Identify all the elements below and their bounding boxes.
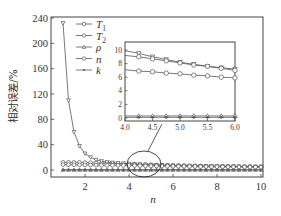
star-marker — [83, 69, 85, 71]
inset-y-tick-label: 0 — [118, 114, 122, 123]
legend-item-T2: T2 — [76, 30, 106, 45]
circle-marker — [219, 66, 223, 70]
star-marker — [206, 116, 208, 118]
star-marker — [138, 116, 140, 118]
star-marker — [84, 169, 86, 171]
circle-marker — [254, 165, 258, 169]
inset-y-tick-label: 8 — [118, 59, 122, 68]
star-marker — [234, 116, 236, 118]
star-marker — [179, 116, 181, 118]
circle-marker — [105, 163, 109, 167]
circle-marker — [243, 165, 247, 169]
circle-marker — [205, 74, 209, 78]
circle-marker — [149, 164, 153, 168]
circle-marker — [171, 164, 175, 168]
inset-y-tick-label: 10 — [115, 46, 123, 55]
legend-label: k — [96, 64, 102, 76]
star-marker — [117, 169, 119, 171]
star-marker — [62, 169, 64, 171]
circle-marker — [248, 165, 252, 169]
star-marker — [89, 169, 91, 171]
inset-y-tick-label: 2 — [118, 100, 122, 109]
circle-marker — [193, 165, 197, 169]
legend-subscript: 1 — [102, 24, 106, 33]
circle-marker — [259, 165, 263, 169]
legend: T1T2ρnk — [76, 18, 106, 76]
star-marker — [133, 169, 135, 171]
star-marker — [106, 169, 108, 171]
star-marker — [100, 169, 102, 171]
circle-marker — [237, 165, 241, 169]
star-marker — [144, 169, 146, 171]
circle-marker — [233, 68, 237, 72]
star-marker — [172, 169, 174, 171]
circle-marker — [164, 59, 168, 63]
circle-marker — [155, 164, 159, 168]
circle-marker — [177, 164, 181, 168]
x-axis-label: n — [150, 193, 156, 205]
star-marker — [188, 169, 190, 171]
circle-marker — [82, 34, 85, 37]
circle-marker — [133, 164, 137, 168]
triangle-down-marker — [89, 156, 93, 159]
star-marker — [67, 169, 69, 171]
x-tick-label: 2 — [82, 181, 87, 192]
circle-marker — [219, 75, 223, 79]
inset-x-tick-label: 6.0 — [230, 123, 240, 132]
star-marker — [150, 169, 152, 171]
legend-label: ρ — [95, 41, 101, 53]
legend-item-n: n — [76, 53, 102, 65]
star-marker — [155, 169, 157, 171]
star-marker — [249, 169, 251, 171]
circle-marker — [188, 165, 192, 169]
circle-marker — [82, 57, 85, 60]
star-marker — [205, 169, 207, 171]
legend-item-ρ: ρ — [76, 41, 101, 53]
star-marker — [193, 116, 195, 118]
star-marker — [165, 116, 167, 118]
circle-marker — [192, 63, 196, 67]
legend-item-k: k — [76, 64, 102, 76]
star-marker — [220, 116, 222, 118]
y-tick-label: 40 — [38, 139, 49, 150]
inset-y-tick-label: 4 — [118, 86, 122, 95]
star-marker — [122, 169, 124, 171]
x-tick-label: 6 — [170, 181, 175, 192]
circle-marker — [204, 165, 208, 169]
y-tick-label: 240 — [32, 13, 48, 24]
y-tick-label: 200 — [32, 38, 48, 49]
star-marker — [221, 169, 223, 171]
circle-marker — [210, 165, 214, 169]
legend-label: n — [96, 53, 102, 65]
circle-marker — [122, 164, 126, 168]
legend-subscript: 2 — [102, 36, 106, 45]
star-marker — [227, 169, 229, 171]
star-marker — [183, 169, 185, 171]
star-marker — [161, 169, 163, 171]
circle-marker — [205, 64, 209, 68]
y-tick-label: 120 — [32, 89, 48, 100]
circle-marker — [116, 163, 120, 167]
circle-marker — [83, 163, 87, 167]
star-marker — [260, 169, 262, 171]
x-tick-label: 8 — [214, 181, 219, 192]
circle-marker — [94, 163, 98, 167]
x-tick-label: 10 — [256, 181, 267, 192]
circle-marker — [138, 164, 142, 168]
star-marker — [73, 169, 75, 171]
circle-marker — [199, 165, 203, 169]
star-marker — [210, 169, 212, 171]
inset-plot: 4.04.55.05.56.00246810 — [115, 42, 240, 132]
inset-x-tick-label: 4.5 — [148, 123, 158, 132]
circle-marker — [78, 163, 82, 167]
circle-marker — [164, 71, 168, 75]
circle-marker — [89, 163, 93, 167]
star-marker — [177, 169, 179, 171]
triangle-down-marker — [61, 22, 65, 25]
circle-marker — [82, 22, 85, 25]
circle-marker — [111, 163, 115, 167]
chart: 24681004080120160200240 T1T2ρnk 4.04.55.… — [0, 0, 281, 216]
circle-marker — [221, 165, 225, 169]
star-marker — [243, 169, 245, 171]
circle-marker — [61, 163, 65, 167]
